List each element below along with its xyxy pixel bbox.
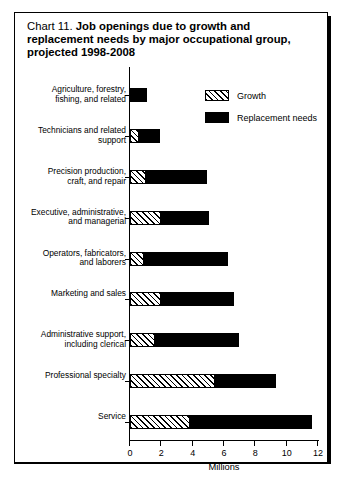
bar-row [130, 333, 318, 347]
category-label: Precision production, craft, and repair [8, 167, 126, 186]
x-tick-label: 10 [282, 448, 292, 458]
bar-segment-replacement [138, 129, 160, 143]
category-label: Technicians and related support [8, 126, 126, 145]
x-tick [129, 441, 130, 446]
bar-row [130, 129, 318, 143]
x-tick [317, 441, 318, 446]
y-tick [125, 381, 130, 382]
category-label: Operators, fabricators, and laborers [8, 249, 126, 268]
bar-row [130, 292, 318, 306]
y-tick [125, 299, 130, 300]
category-label: Marketing and sales [8, 289, 126, 299]
x-tick-label: 6 [221, 448, 226, 458]
bar-segment-replacement [214, 374, 277, 388]
bar-segment-growth [130, 170, 146, 184]
bar-segment-replacement [189, 415, 313, 429]
figure-right-shadow [328, 16, 331, 464]
bar-row [130, 374, 318, 388]
plot-area: 024681012 Millions [130, 73, 318, 440]
bar-segment-replacement [145, 170, 208, 184]
bar-segment-replacement [143, 252, 228, 266]
bar-row [130, 415, 318, 429]
x-tick [254, 441, 255, 446]
x-tick-label: 8 [253, 448, 258, 458]
x-tick-label: 2 [159, 448, 164, 458]
bar-segment-replacement [154, 333, 239, 347]
category-label: Agriculture, forestry, fishing, and rela… [8, 85, 126, 104]
category-label: Executive, administrative, and manageria… [8, 208, 126, 227]
category-label: Administrative support, including cleric… [8, 330, 126, 349]
bar-row [130, 170, 318, 184]
category-label: Service [8, 412, 126, 422]
bar-segment-replacement [160, 211, 209, 225]
y-axis-top-stub [129, 67, 130, 73]
bar-segment-growth [130, 292, 161, 306]
bar-segment-growth [130, 374, 215, 388]
x-tick-label: 4 [190, 448, 195, 458]
bar-segment-replacement [130, 88, 147, 102]
y-tick [125, 422, 130, 423]
x-tick [192, 441, 193, 446]
x-tick-label: 0 [127, 448, 132, 458]
category-label: Professional specialty [8, 371, 126, 381]
x-tick [286, 441, 287, 446]
bar-segment-growth [130, 415, 190, 429]
bar-row [130, 88, 318, 102]
x-axis-label: Millions [209, 462, 240, 472]
bar-segment-replacement [160, 292, 234, 306]
bar-row [130, 211, 318, 225]
bar-segment-growth [130, 333, 155, 347]
chart-title-prefix: Chart 11. [27, 20, 73, 32]
x-tick [160, 441, 161, 446]
chart-figure: Chart 11. Job openings due to growth and… [14, 12, 328, 463]
chart-title: Chart 11. Job openings due to growth and… [27, 20, 315, 60]
bar-row [130, 252, 318, 266]
bar-segment-growth [130, 211, 161, 225]
x-tick-label: 12 [313, 448, 323, 458]
x-axis-line [129, 440, 319, 441]
x-tick [223, 441, 224, 446]
bar-segment-growth [130, 252, 144, 266]
